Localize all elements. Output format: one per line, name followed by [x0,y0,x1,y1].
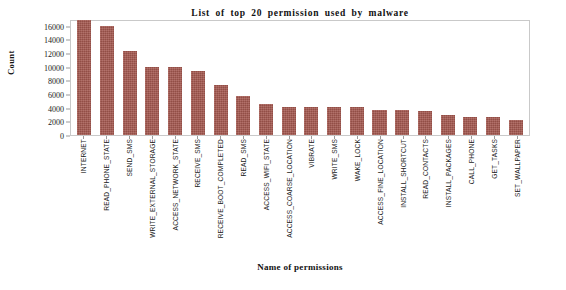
bar [282,107,296,135]
bar [395,110,409,135]
x-axis-tick-label: READ_SMS [239,139,246,176]
x-axis-label-slot: INSTALL_SHORTCUT [391,137,414,252]
y-axis-tick-label: 16000 [44,22,64,31]
y-axis-label: Count [6,50,16,75]
plot-area [70,20,530,136]
x-axis-tick-label: RECEIVE_BOOT_COMPLETED [217,139,224,238]
y-axis: Count 0200040006000800010000120001400016… [0,20,70,136]
bar [441,115,455,135]
y-axis-tick-label: 14000 [44,36,64,45]
x-axis-label-slot: CALL_PHONE [460,137,483,252]
bar-slot [345,21,368,135]
x-axis-tick-label: GET_TASKS [490,139,497,179]
bar [168,67,182,135]
x-axis-tick-label: SEND_SMS [125,139,132,176]
bar-slot [504,21,527,135]
y-axis-tick-label: 0 [60,132,64,141]
x-axis-tick-label: VIBRATE [308,139,315,168]
x-axis-label-slot: ACCESS_WIFI_STATE [254,137,277,252]
x-axis-label-slot: WRITE_EXTERNAL_STORAGE [140,137,163,252]
x-axis-label-slot: READ_CONTACTS [414,137,437,252]
bar-slot [436,21,459,135]
bar [100,26,114,135]
y-axis-tick-label: 6000 [48,91,64,100]
y-axis-tick-label: 10000 [44,63,64,72]
x-axis-label-slot: READ_PHONE_STATE [95,137,118,252]
bar [214,85,228,135]
chart-title: List of top 20 permission used by malwar… [70,8,530,18]
bar-slot [73,21,96,135]
x-axis-tick-label: WAKE_LOCK [353,139,360,181]
bar-slot [209,21,232,135]
x-axis-tick-labels: INTERNETREAD_PHONE_STATESEND_SMSWRITE_EX… [70,137,530,252]
bar-slot [255,21,278,135]
bar-slot [323,21,346,135]
bar-slot [277,21,300,135]
x-axis-label-slot: INSTALL_PACKAGES [437,137,460,252]
chart-figure: List of top 20 permission used by malwar… [0,0,566,290]
bar-slot [232,21,255,135]
x-axis-label-slot: ACCESS_FINE_LOCATION [368,137,391,252]
x-axis-tick-label: RECEIVE_SMS [194,139,201,188]
bar [191,71,205,135]
bar-slot [459,21,482,135]
x-axis-tick-label: ACCESS_WIFI_STATE [262,139,269,210]
bar-slot [414,21,437,135]
x-axis-label-slot: READ_SMS [232,137,255,252]
bar [463,117,477,135]
x-axis-tick-label: INTERNET [80,139,87,173]
x-axis-label-slot: SEND_SMS [118,137,141,252]
x-axis-tick-label: READ_PHONE_STATE [103,139,110,211]
x-axis-tick-label: READ_CONTACTS [422,139,429,199]
x-axis-tick-label: INSTALL_SHORTCUT [399,139,406,208]
x-axis-label-slot: SET_WALLPAPER [505,137,528,252]
x-axis-tick-label: ACCESS_COARSE_LOCATION [285,139,292,238]
x-axis-label: Name of permissions [70,262,530,272]
bar-slot [482,21,505,135]
bar [327,107,341,135]
x-axis-tick-label: INSTALL_PACKAGES [445,139,452,207]
y-axis-tick-label: 4000 [48,104,64,113]
x-axis-tick-label: SET_WALLPAPER [513,139,520,197]
x-axis-label-slot: ACCESS_COARSE_LOCATION [277,137,300,252]
x-axis-tick-label: WRITE_EXTERNAL_STORAGE [148,139,155,238]
bar [304,107,318,135]
x-axis-label-slot: GET_TASKS [482,137,505,252]
bar [350,107,364,135]
x-axis-tick-label: CALL_PHONE [467,139,474,184]
bar [486,117,500,135]
bar-slot [96,21,119,135]
x-axis-tick-label: ACCESS_FINE_LOCATION [376,139,383,225]
x-axis-label-slot: VIBRATE [300,137,323,252]
x-axis-label-slot: RECEIVE_BOOT_COMPLETED [209,137,232,252]
bar-slot [118,21,141,135]
bars-layer [71,21,529,135]
bar [259,104,273,135]
bar [145,67,159,135]
bar [372,110,386,135]
bar-slot [391,21,414,135]
bar-slot [164,21,187,135]
bar [418,111,432,135]
bar-slot [141,21,164,135]
x-axis-label-slot: RECEIVE_SMS [186,137,209,252]
x-axis-label-slot: WAKE_LOCK [346,137,369,252]
bar [236,96,250,135]
bar-slot [368,21,391,135]
x-axis-label-slot: ACCESS_NETWORK_STATE [163,137,186,252]
bar [77,20,91,135]
y-axis-tick-label: 2000 [48,118,64,127]
x-axis-label-slot: INTERNET [72,137,95,252]
y-axis-tick-label: 8000 [48,77,64,86]
x-axis-tick-label: WRITE_SMS [331,139,338,180]
x-axis-tick-label: ACCESS_NETWORK_STATE [171,139,178,230]
bar [123,51,137,135]
x-axis-label-slot: WRITE_SMS [323,137,346,252]
bar-slot [187,21,210,135]
bar [509,120,523,135]
y-axis-tick-label: 12000 [44,50,64,59]
bar-slot [300,21,323,135]
